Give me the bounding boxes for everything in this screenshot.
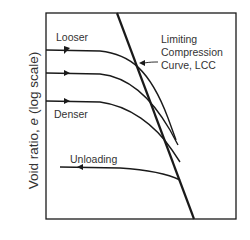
lcc-label-line1: Limiting [161,33,197,45]
denser-label: Denser [54,108,88,120]
looser-curve [46,50,176,140]
arrow-left-icon [139,60,145,66]
y-axis-label: Void ratio, e (log scale) [26,36,41,206]
unloading-label: Unloading [70,153,117,165]
arrow-right-icon [64,98,70,104]
looser-label: Looser [56,31,88,43]
unloading-curve [60,167,180,180]
arrow-right-icon [64,70,70,76]
lcc-label-line2: Compression [161,46,223,58]
lcc-pointer-line [144,62,158,63]
lcc-label-line3: Curve, LCC [161,59,216,71]
